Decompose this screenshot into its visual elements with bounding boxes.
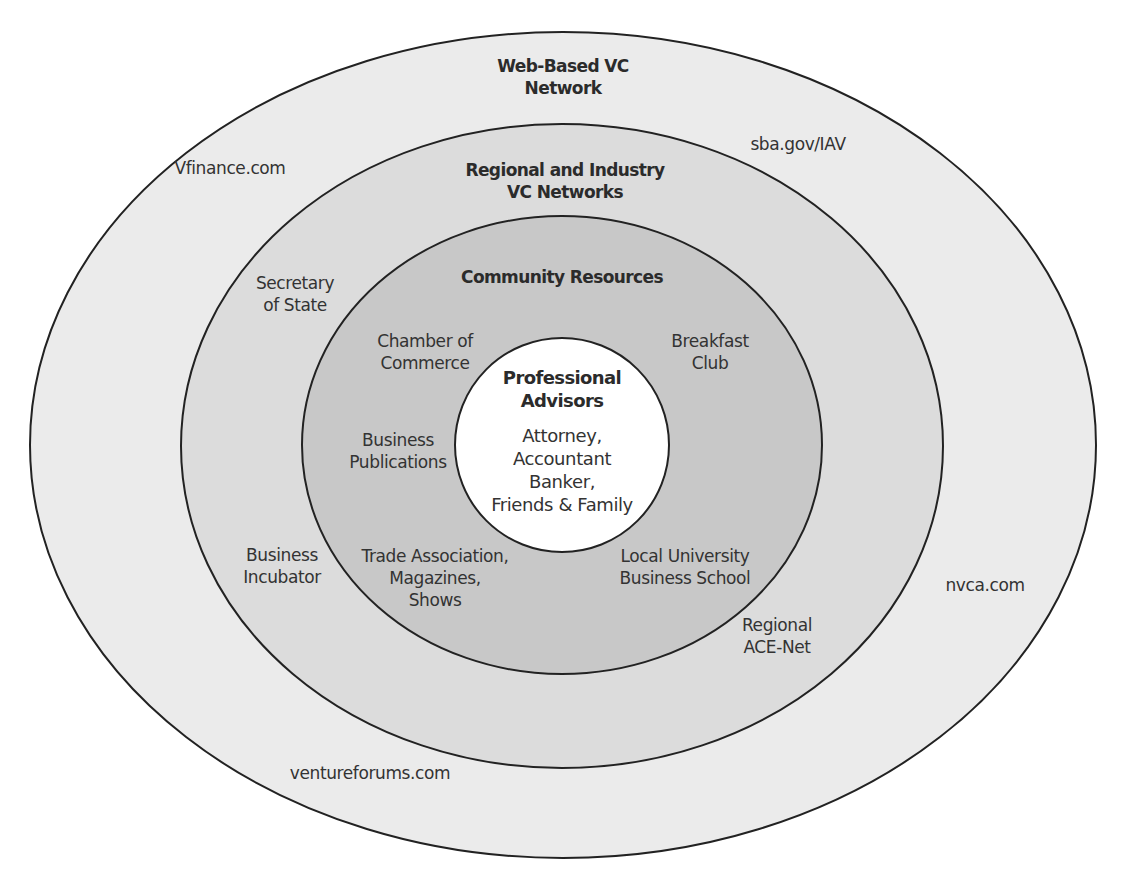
core-title-professional-advisors: Professional Advisors — [477, 366, 647, 412]
core-items-professional-advisors: Attorney, Accountant Banker, Friends & F… — [477, 424, 647, 516]
label-sba-gov-iav: sba.gov/IAV — [738, 133, 858, 155]
label-business-incubator: Business Incubator — [232, 544, 332, 588]
label-ventureforums: ventureforums.com — [270, 762, 470, 784]
label-trade-association: Trade Association, Magazines, Shows — [350, 545, 520, 611]
label-business-publications: Business Publications — [333, 429, 463, 473]
label-nvca: nvca.com — [930, 574, 1040, 596]
label-local-university-business-school: Local University Business School — [600, 545, 770, 589]
ring-title-web-based-vc-network: Web-Based VC Network — [463, 55, 663, 99]
label-vfinance: Vfinance.com — [170, 157, 290, 179]
label-chamber-of-commerce: Chamber of Commerce — [360, 330, 490, 374]
label-regional-ace-net: Regional ACE-Net — [722, 614, 832, 658]
label-secretary-of-state: Secretary of State — [240, 272, 350, 316]
ring-title-community-resources: Community Resources — [442, 266, 682, 288]
ring-title-regional-industry-vc-networks: Regional and Industry VC Networks — [435, 159, 695, 203]
label-breakfast-club: Breakfast Club — [655, 330, 765, 374]
